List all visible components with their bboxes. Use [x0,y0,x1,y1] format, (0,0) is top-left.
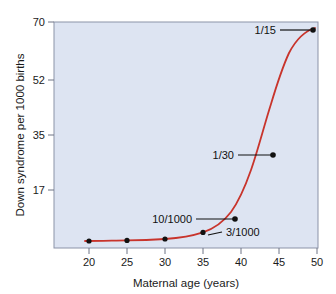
annotation-label-10-1000: 10/1000 [152,213,192,225]
y-axis-title: Down syndrome per 1000 births [14,53,26,216]
chart-svg: 70 52 35 17 20 25 30 35 40 45 50 Materna… [0,0,336,294]
x-tick-label-45: 45 [273,256,285,268]
data-point-age-30 [162,236,167,241]
x-tick-label-30: 30 [159,256,171,268]
annotation-label-1-15: 1/15 [255,24,276,36]
x-tick-label-20: 20 [83,256,95,268]
y-axis-ticks [48,22,54,190]
x-tick-label-50: 50 [311,256,323,268]
annotation-label-1-30: 1/30 [213,149,234,161]
x-tick-label-35: 35 [197,256,209,268]
y-tick-label-35: 35 [33,129,45,141]
annotation-label-3-1000: 3/1000 [226,226,260,238]
y-tick-label-52: 52 [33,74,45,86]
y-tick-label-17: 17 [33,184,45,196]
data-point-age-35 [200,230,205,235]
data-point-age-50 [310,27,316,33]
data-point-age-25 [124,238,129,243]
x-tick-label-25: 25 [121,256,133,268]
data-point-age-20 [86,238,91,243]
data-point-age-45 [270,152,276,158]
data-point-age-40 [232,216,238,222]
x-tick-label-40: 40 [235,256,247,268]
x-axis-title: Maternal age (years) [133,277,239,289]
x-axis-ticks [89,248,317,254]
y-tick-label-70: 70 [33,16,45,28]
chart-figure: the risk of the condition, which then in… [0,0,336,294]
